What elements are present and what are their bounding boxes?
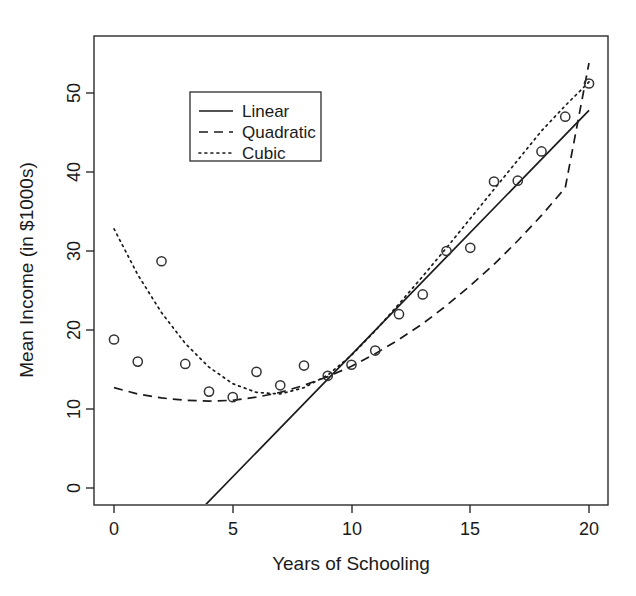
data-point [489, 177, 498, 186]
data-point [276, 381, 285, 390]
curve-quadratic [114, 63, 589, 401]
y-tick-label: 30 [64, 241, 84, 261]
data-point [133, 357, 142, 366]
regression-scatter-chart: 0 10 20 30 40 50 0 5 10 15 20 Years of S… [0, 0, 636, 596]
y-tick-label: 20 [64, 320, 84, 340]
curve-linear [202, 110, 589, 508]
curve-cubic [114, 82, 589, 394]
data-point [394, 310, 403, 319]
data-point [181, 359, 190, 368]
data-point [299, 361, 308, 370]
x-tick-label: 15 [460, 519, 480, 539]
plot-frame [94, 36, 608, 505]
x-tick-label: 5 [228, 519, 238, 539]
data-point [537, 147, 546, 156]
y-axis-title: Mean Income (in $1000s) [16, 162, 37, 377]
data-point [109, 335, 118, 344]
data-point [204, 387, 213, 396]
plot-area [109, 63, 593, 509]
x-tick-label: 10 [342, 519, 362, 539]
x-axis-ticks [114, 505, 589, 513]
legend: Linear Quadratic Cubic [190, 92, 321, 163]
data-point [252, 367, 261, 376]
chart-page: 0 10 20 30 40 50 0 5 10 15 20 Years of S… [0, 0, 636, 596]
y-axis-tick-labels: 0 10 20 30 40 50 [64, 83, 84, 493]
x-tick-label: 20 [579, 519, 599, 539]
y-tick-label: 0 [64, 483, 84, 493]
x-tick-label: 0 [109, 519, 119, 539]
legend-label-linear: Linear [242, 102, 290, 121]
y-tick-label: 40 [64, 162, 84, 182]
data-point [466, 243, 475, 252]
data-point [157, 257, 166, 266]
y-tick-label: 10 [64, 399, 84, 419]
legend-label-cubic: Cubic [242, 144, 286, 163]
x-axis-title: Years of Schooling [272, 553, 430, 574]
legend-label-quadratic: Quadratic [242, 123, 316, 142]
y-tick-label: 50 [64, 83, 84, 103]
x-axis-tick-labels: 0 5 10 15 20 [109, 519, 599, 539]
data-point [418, 290, 427, 299]
data-point [561, 112, 570, 121]
y-axis-ticks [86, 93, 94, 488]
